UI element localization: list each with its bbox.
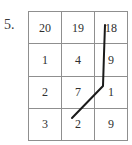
table-row: 20 19 18 [29, 12, 128, 44]
grid-cell-r1c3[interactable]: 18 [95, 12, 128, 44]
grid-cell-r2c1[interactable]: 1 [29, 44, 62, 76]
item-number-label: 5. [4, 18, 15, 32]
grid-cell-r2c2[interactable]: 4 [62, 44, 95, 76]
table-row: 1 4 9 [29, 44, 128, 76]
grid-cell-r1c1[interactable]: 20 [29, 12, 62, 44]
grid-cell-r3c1[interactable]: 2 [29, 76, 62, 108]
number-grid-container: 20 19 18 1 4 9 2 7 1 3 2 9 [28, 11, 124, 136]
table-row: 2 7 1 [29, 76, 128, 108]
table-row: 3 2 9 [29, 108, 128, 140]
grid-cell-r4c2[interactable]: 2 [62, 108, 95, 140]
grid-cell-r4c3[interactable]: 9 [95, 108, 128, 140]
grid-cell-r4c1[interactable]: 3 [29, 108, 62, 140]
grid-cell-r3c2[interactable]: 7 [62, 76, 95, 108]
grid-cell-r1c2[interactable]: 19 [62, 12, 95, 44]
grid-cell-r3c3[interactable]: 1 [95, 76, 128, 108]
figure-container: 5. 20 19 18 1 4 9 2 7 1 [0, 0, 132, 145]
grid-cell-r2c3[interactable]: 9 [95, 44, 128, 76]
number-grid: 20 19 18 1 4 9 2 7 1 3 2 9 [28, 11, 128, 141]
